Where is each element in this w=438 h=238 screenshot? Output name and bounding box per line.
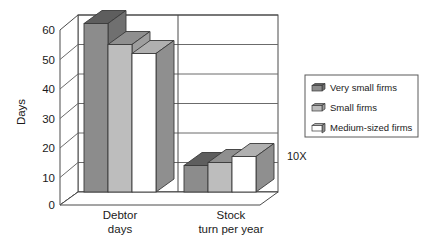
category-label-debtor-line1: Debtor xyxy=(103,209,138,221)
y-tick-0: 0 xyxy=(49,199,55,211)
category-label-debtor-line2: days xyxy=(108,223,133,235)
y-tick-40: 40 xyxy=(42,83,55,95)
y-axis-title: Days xyxy=(15,99,27,125)
y-tick-50: 50 xyxy=(42,54,55,66)
bar-chart-svg: 60 50 40 30 20 10 0 Days xyxy=(0,0,438,238)
legend-swatch-front xyxy=(312,86,322,92)
bar-front-face xyxy=(108,45,132,193)
bar-side-face xyxy=(156,41,174,193)
legend-label: Very small firms xyxy=(330,82,397,93)
legend-swatch-side xyxy=(322,124,325,134)
bar-front-face xyxy=(132,54,156,193)
legend-swatch-front xyxy=(312,106,322,112)
legend-swatch-front xyxy=(312,126,322,132)
category-label-stockturn-line2: turn per year xyxy=(198,223,263,235)
legend-label: Small firms xyxy=(330,102,377,113)
chart-legend: Very small firms Small firms Medium-size… xyxy=(305,75,418,137)
y-tick-20: 20 xyxy=(42,142,55,154)
left-depth-wall xyxy=(60,15,78,205)
annotation-10x: 10X xyxy=(287,150,307,162)
y-tick-30: 30 xyxy=(42,113,55,125)
bar-front-face xyxy=(208,163,232,193)
bar-front-face xyxy=(84,24,108,193)
plot-floor xyxy=(60,192,278,205)
bar-front-face xyxy=(232,157,256,193)
left-wall-panel xyxy=(60,15,78,205)
category-label-stockturn-line1: Stock xyxy=(217,209,246,221)
y-tick-10: 10 xyxy=(42,172,55,184)
bar-front-face xyxy=(184,166,208,193)
bar-debtor-medium-sized-firms xyxy=(132,41,174,193)
legend-item-small-firms[interactable]: Small firms xyxy=(312,102,377,113)
legend-label: Medium-sized firms xyxy=(330,122,413,133)
y-tick-60: 60 xyxy=(42,24,55,36)
chart-figure: 60 50 40 30 20 10 0 Days xyxy=(0,0,438,238)
